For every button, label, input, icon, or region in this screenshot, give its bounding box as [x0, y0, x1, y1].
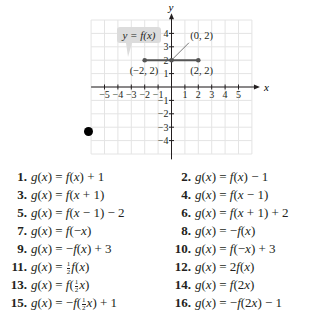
- exercise-number: 10.: [164, 241, 191, 256]
- exercise-expression: g(x) = f(2x): [195, 277, 254, 292]
- exercise-expression: g(x) = f(12x): [31, 277, 89, 292]
- x-tick-label: −2: [139, 89, 150, 100]
- exercise-item: 16.g(x) = −f(2x) − 1: [164, 295, 282, 310]
- exercise-item: 5.g(x) = f(x − 1) − 2: [0, 205, 125, 220]
- exercise-number: 11.: [0, 259, 27, 274]
- point-marker: [142, 58, 147, 63]
- exercise-expression: g(x) = f(x − 1): [195, 187, 268, 202]
- exercise-number: 3.: [0, 187, 27, 202]
- y-tick-label: 4: [164, 28, 169, 39]
- function-label-callout: y = f(x): [117, 27, 161, 57]
- marker-dot: [84, 127, 93, 136]
- exercise-expression: g(x) = f(x − 1) − 2: [31, 205, 125, 220]
- exercise-number: 4.: [164, 187, 191, 202]
- exercise-expression: g(x) = f(x) + 1: [31, 169, 104, 184]
- y-tick-label: −2: [158, 108, 169, 119]
- exercise-item: 9.g(x) = −f(x) + 3: [0, 241, 112, 256]
- exercise-item: 13.g(x) = f(12x): [0, 277, 89, 294]
- x-tick-label: −4: [113, 89, 124, 100]
- exercise-item: 15.g(x) = −f(12x) + 1: [0, 295, 117, 312]
- exercise-number: 16.: [164, 295, 191, 310]
- exercise-expression: g(x) = −f(x) + 3: [31, 241, 112, 256]
- function-graph: xy −5−4−3−2−1123454321−1−2−3−4 (−2, 2)(0…: [0, 0, 315, 165]
- x-axis-label: x: [263, 81, 269, 93]
- exercise-item: 14.g(x) = f(2x): [164, 277, 254, 292]
- fraction: 12: [67, 261, 71, 276]
- y-tick-label: 1: [164, 68, 169, 79]
- exercise-number: 15.: [0, 295, 27, 310]
- exercise-number: 5.: [0, 205, 27, 220]
- x-tick-label: −3: [126, 89, 137, 100]
- exercise-item: 8.g(x) = −f(x): [164, 223, 255, 238]
- exercise-item: 3.g(x) = f(x + 1): [0, 187, 104, 202]
- x-tick-label: 4: [223, 89, 228, 100]
- y-tick-label: 3: [164, 41, 169, 52]
- y-tick-label: −1: [158, 95, 169, 106]
- exercise-number: 1.: [0, 169, 27, 184]
- exercise-item: 12.g(x) = 2f(x): [164, 259, 254, 274]
- exercise-expression: g(x) = f(−x) + 3: [195, 241, 276, 256]
- x-tick-label: −5: [99, 89, 110, 100]
- exercise-item: 10.g(x) = f(−x) + 3: [164, 241, 276, 256]
- exercise-expression: g(x) = f(x + 1): [31, 187, 104, 202]
- y-tick-label: −4: [158, 135, 169, 146]
- exercise-item: 6.g(x) = f(x + 1) + 2: [164, 205, 289, 220]
- function-label: y = f(x): [121, 29, 155, 42]
- exercise-item: 4.g(x) = f(x − 1): [164, 187, 268, 202]
- point-label: (−2, 2): [130, 65, 159, 77]
- y-axis-label: y: [168, 1, 174, 13]
- exercise-item: 7.g(x) = f(−x): [0, 223, 91, 238]
- exercise-expression: g(x) = f(−x): [31, 223, 91, 238]
- exercise-number: 13.: [0, 277, 27, 292]
- exercise-expression: g(x) = f(x + 1) + 2: [195, 205, 289, 220]
- x-tick-label: 5: [236, 89, 241, 100]
- exercise-expression: g(x) = −f(x): [195, 223, 255, 238]
- exercise-number: 2.: [164, 169, 191, 184]
- point-label: (0, 2): [190, 30, 213, 42]
- exercise-expression: g(x) = 2f(x): [195, 259, 254, 274]
- exercise-item: 11.g(x) = 12f(x): [0, 259, 89, 276]
- exercise-item: 2.g(x) = f(x) − 1: [164, 169, 268, 184]
- exercise-number: 14.: [164, 277, 191, 292]
- exercise-number: 9.: [0, 241, 27, 256]
- point-marker: [196, 58, 201, 63]
- exercise-expression: g(x) = −f(12x) + 1: [31, 295, 117, 310]
- exercise-expression: g(x) = −f(2x) − 1: [195, 295, 282, 310]
- exercise-number: 7.: [0, 223, 27, 238]
- point-label: (2, 2): [190, 65, 213, 77]
- y-tick-label: −3: [158, 122, 169, 133]
- exercise-expression: g(x) = f(x) − 1: [195, 169, 268, 184]
- exercise-number: 6.: [164, 205, 191, 220]
- fraction: 12: [82, 297, 86, 312]
- x-tick-label: 2: [196, 89, 201, 100]
- x-tick-label: 3: [209, 89, 214, 100]
- exercise-number: 12.: [164, 259, 191, 274]
- exercise-item: 1.g(x) = f(x) + 1: [0, 169, 104, 184]
- exercise-expression: g(x) = 12f(x): [31, 259, 89, 274]
- exercise-number: 8.: [164, 223, 191, 238]
- x-tick-label: 1: [182, 89, 187, 100]
- fraction: 12: [75, 279, 79, 294]
